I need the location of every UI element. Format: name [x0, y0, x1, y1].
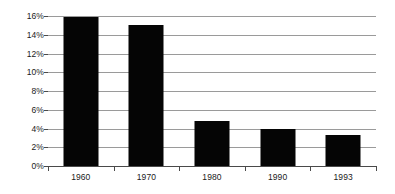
- y-axis-tick-label: 16%: [4, 12, 44, 21]
- bar-chart: 0%2%4%6%8%10%12%14%16% 19601970198019901…: [0, 0, 395, 194]
- x-axis-tick-label: 1970: [114, 173, 180, 182]
- x-axis-tick-label: 1993: [310, 173, 376, 182]
- x-axis-tick-mark: [179, 166, 180, 171]
- y-axis-tick-label: 10%: [4, 68, 44, 77]
- x-axis-tick-label: 1990: [245, 173, 311, 182]
- x-axis: 19601970198019901993: [48, 173, 376, 187]
- x-axis-tick-mark: [48, 166, 49, 171]
- x-axis-tick-mark: [245, 166, 246, 171]
- y-axis-tick-label: 8%: [4, 87, 44, 96]
- x-axis-tick-mark: [310, 166, 311, 171]
- bar: [326, 135, 361, 166]
- bar: [194, 121, 229, 166]
- y-axis-tick-label: 4%: [4, 125, 44, 134]
- plot-area: [48, 16, 376, 166]
- y-axis-tick-label: 2%: [4, 143, 44, 152]
- bar-slot: [245, 16, 311, 166]
- bar: [63, 17, 98, 166]
- x-axis-tick-mark: [114, 166, 115, 171]
- y-axis-tick-label: 6%: [4, 106, 44, 115]
- x-axis-tick-label: 1960: [48, 173, 114, 182]
- bar-slot: [48, 16, 114, 166]
- bar: [260, 129, 295, 167]
- y-axis-tick-label: 0%: [4, 162, 44, 171]
- bar-slot: [179, 16, 245, 166]
- bar: [129, 25, 164, 166]
- bar-slot: [310, 16, 376, 166]
- x-axis-tick-label: 1980: [179, 173, 245, 182]
- bar-slot: [114, 16, 180, 166]
- x-axis-tick-mark: [376, 166, 377, 171]
- y-axis-tick-label: 12%: [4, 50, 44, 59]
- y-axis-tick-label: 14%: [4, 31, 44, 40]
- y-axis: 0%2%4%6%8%10%12%14%16%: [0, 0, 44, 194]
